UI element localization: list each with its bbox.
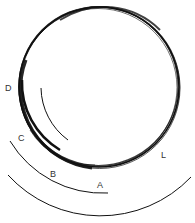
label-a: A [97,181,103,190]
label-c: C [18,134,25,143]
main-circle [19,7,180,169]
inner-arc [41,88,68,140]
label-d: D [5,84,12,93]
label-b: B [50,170,56,179]
label-l: L [161,151,166,160]
